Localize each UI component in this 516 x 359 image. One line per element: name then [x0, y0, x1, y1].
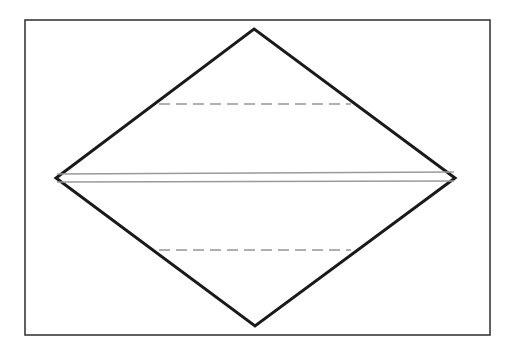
- center-line-lower: [57, 181, 454, 182]
- figure-canvas: [0, 0, 516, 359]
- diagram-svg: [0, 0, 516, 359]
- outer-rectangle-frame: [25, 20, 490, 335]
